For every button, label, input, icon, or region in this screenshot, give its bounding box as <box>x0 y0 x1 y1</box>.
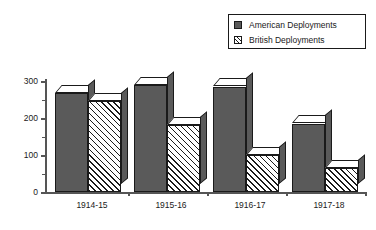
bar-british-1914-15 <box>88 93 121 192</box>
x-tick-label-1914-15: 1914-15 <box>57 200 127 210</box>
y-tick-label-100: 100 <box>0 151 38 159</box>
y-tick-0 <box>41 192 46 194</box>
y-axis-line <box>45 79 47 193</box>
bar-british-1917-18 <box>325 160 358 192</box>
bar-british-1916-17 <box>246 147 279 192</box>
bar-american-1916-17 <box>213 78 246 192</box>
y-minor-tick-250 <box>42 100 45 102</box>
y-tick-label-0: 0 <box>0 188 38 196</box>
legend-label-british: British Deployments <box>249 35 325 45</box>
legend-item-american: American Deployments <box>234 18 360 32</box>
y-tick-300 <box>41 81 46 83</box>
x-tick-4 <box>365 192 367 196</box>
x-tick-label-1917-18: 1917-18 <box>294 200 364 210</box>
y-tick-200 <box>41 118 46 120</box>
x-tick-label-1915-16: 1915-16 <box>136 200 206 210</box>
x-axis-line <box>45 192 366 194</box>
bar-british-1915-16 <box>167 117 200 192</box>
y-minor-tick-150 <box>42 137 45 139</box>
bar-american-1917-18 <box>292 115 325 192</box>
y-tick-label-300: 300 <box>0 77 38 85</box>
bar-chart: American Deployments British Deployments… <box>0 0 376 230</box>
bar-american-1914-15 <box>55 85 88 192</box>
legend-swatch-hatched-icon <box>234 36 242 44</box>
legend-item-british: British Deployments <box>234 33 360 47</box>
x-tick-3 <box>286 192 288 196</box>
y-tick-100 <box>41 155 46 157</box>
y-minor-tick-50 <box>42 174 45 176</box>
legend-label-american: American Deployments <box>249 20 337 30</box>
x-tick-1 <box>128 192 130 196</box>
legend-swatch-solid-icon <box>234 21 242 29</box>
x-tick-label-1916-17: 1916-17 <box>215 200 285 210</box>
x-tick-2 <box>207 192 209 196</box>
y-tick-label-200: 200 <box>0 114 38 122</box>
bar-american-1915-16 <box>134 77 167 192</box>
chart-legend: American Deployments British Deployments <box>228 14 366 49</box>
